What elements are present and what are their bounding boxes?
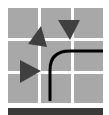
bottom-bar xyxy=(8,108,103,115)
routing-grid-icon xyxy=(0,0,109,115)
